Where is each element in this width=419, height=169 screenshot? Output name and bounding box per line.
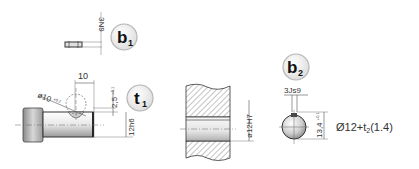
badge-t1: t 1: [127, 85, 153, 111]
svg-text:2: 2: [298, 68, 303, 78]
svg-text:1: 1: [128, 38, 133, 48]
engineering-drawing: 3N9 b 1 10 ø10 +0.2 2,5: [0, 0, 419, 169]
slot-width-label: 3Js9: [284, 86, 301, 95]
depth-dimension: 2,5 +0.1: [110, 86, 119, 108]
svg-text:b: b: [287, 58, 297, 77]
badge-b1: b 1: [111, 24, 137, 50]
hub-section-view: ø12H7: [180, 84, 254, 160]
key-shape: [65, 42, 82, 47]
ball-height-label: 13,4 +0.1: [315, 112, 324, 138]
svg-text:t: t: [134, 89, 140, 108]
hub-lower-hatch: [186, 141, 230, 161]
bore-diameter-label: ø12H7: [245, 113, 254, 138]
diameter-formula: Ø12+t2(1.4): [336, 121, 393, 134]
svg-text:1: 1: [142, 99, 147, 109]
badge-b2: b 2: [283, 54, 309, 80]
svg-text:b: b: [117, 28, 127, 47]
shaft-diameter-label: 12h6: [127, 118, 136, 136]
width-dimension: 10: [78, 71, 88, 81]
hub-upper-hatch: [186, 84, 230, 117]
key-tolerance-label: 3N9: [97, 17, 106, 32]
ball-b2-view: 3Js9 13,4 +0.1 Ø12+t2(1.4): [279, 86, 393, 144]
ball-diameter-label: ø10 +0.2: [36, 91, 62, 109]
key-b1-view: 3N9: [65, 12, 106, 55]
shaft-t1-view: 10 ø10 +0.2 2,5 +0.1 12h6: [15, 71, 136, 142]
